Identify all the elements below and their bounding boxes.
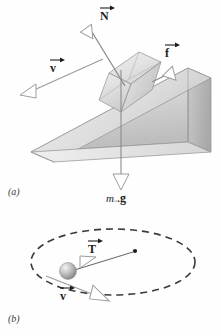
friction-force-label: f <box>165 47 169 59</box>
normal-force-label-text: N <box>100 9 109 23</box>
normal-force-label: N <box>100 10 109 22</box>
weight-label: m g <box>106 192 120 204</box>
orbit-dashed-circle <box>31 229 195 295</box>
panel-a-id: (a) <box>8 186 20 197</box>
tension-label: T <box>88 243 96 255</box>
normal-force-arrowhead-icon <box>80 22 98 39</box>
weight-gravity-symbol: g <box>120 191 126 205</box>
friction-force-arrowhead-icon <box>162 65 178 80</box>
physics-figure <box>0 0 221 336</box>
velocity-b-label: v <box>60 290 66 302</box>
velocity-a-label-text: v <box>50 61 56 75</box>
velocity-a-shaft <box>34 59 103 90</box>
weight-mass-symbol: m <box>106 192 114 204</box>
panel-b-group <box>31 229 195 301</box>
orbiting-ball <box>60 263 77 280</box>
friction-force-label-text: f <box>165 46 169 60</box>
tension-shaft <box>68 252 133 272</box>
tension-label-text: T <box>88 242 96 256</box>
velocity-b-arrowhead-icon <box>90 285 111 301</box>
velocity-a-label: v <box>50 62 56 74</box>
panel-a-group <box>20 22 211 190</box>
weight-arrowhead-icon <box>113 174 129 190</box>
orbit-center-dot <box>133 249 137 253</box>
velocity-a-arrowhead-icon <box>20 84 36 98</box>
panel-b-id: (b) <box>8 313 20 324</box>
velocity-b-label-text: v <box>60 289 66 303</box>
